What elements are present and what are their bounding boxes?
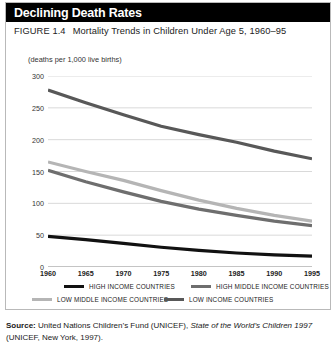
- figure-container: Declining Death Rates FIGURE 1.4Mortalit…: [5, 2, 331, 310]
- page-title: Declining Death Rates: [14, 6, 142, 20]
- y-axis-tick: 150: [32, 167, 44, 176]
- figure-subtitle: Mortality Trends in Children Under Age 5…: [73, 26, 287, 36]
- legend-item: LOW MIDDLE INCOME COUNTRIES: [32, 296, 168, 303]
- x-axis-tick: 1970: [115, 269, 131, 278]
- legend-label: HIGH MIDDLE INCOME COUNTRIES: [216, 283, 329, 290]
- x-axis-tick: 1980: [191, 269, 207, 278]
- chart-series-line: [48, 170, 312, 225]
- x-axis-tick: 1985: [229, 269, 245, 278]
- x-axis-tick: 1990: [266, 269, 282, 278]
- y-axis-tick: 200: [32, 135, 44, 144]
- source-publication-title: State of the World’s Children 1997: [190, 321, 312, 330]
- y-axis-tick: 50: [36, 231, 44, 240]
- y-axis-tick: 0: [40, 263, 44, 272]
- line-chart-svg: [48, 76, 312, 267]
- legend-swatch-icon: [164, 298, 184, 302]
- figure-number: FIGURE 1.4: [14, 26, 66, 36]
- chart-plot-area: [48, 76, 312, 267]
- x-axis-tick: 1965: [78, 269, 94, 278]
- chart-series-line: [48, 162, 312, 221]
- source-label: Source:: [6, 321, 36, 330]
- x-axis-tick: 1960: [40, 269, 56, 278]
- chart-legend: HIGH INCOME COUNTRIESHIGH MIDDLE INCOME …: [6, 282, 332, 308]
- legend-label: LOW INCOME COUNTRIES: [189, 296, 273, 303]
- legend-item: HIGH INCOME COUNTRIES: [64, 283, 175, 290]
- x-axis-tick-labels: 19601965197019751980198519901995: [6, 269, 332, 281]
- legend-swatch-icon: [64, 285, 84, 289]
- figure-caption: FIGURE 1.4Mortality Trends in Children U…: [14, 26, 286, 36]
- legend-label: LOW MIDDLE INCOME COUNTRIES: [57, 296, 168, 303]
- figure-title-bar: Declining Death Rates: [6, 3, 330, 22]
- legend-swatch-icon: [32, 298, 52, 302]
- y-axis-tick: 250: [32, 103, 44, 112]
- source-text-lead: United Nations Children’s Fund (UNICEF),: [36, 321, 191, 330]
- source-note: Source: United Nations Children’s Fund (…: [6, 320, 328, 343]
- x-axis-tick: 1975: [153, 269, 169, 278]
- legend-item: HIGH MIDDLE INCOME COUNTRIES: [191, 283, 329, 290]
- source-text-tail: (UNICEF, New York, 1997).: [6, 333, 103, 342]
- chart-series-line: [48, 236, 312, 256]
- y-axis-tick: 100: [32, 199, 44, 208]
- figure-page: Declining Death Rates FIGURE 1.4Mortalit…: [0, 0, 336, 360]
- legend-swatch-icon: [191, 285, 211, 289]
- y-axis-tick: 300: [32, 72, 44, 81]
- y-axis-tick-labels: 050100150200250300: [6, 3, 48, 303]
- chart-series-line: [48, 90, 312, 159]
- legend-item: LOW INCOME COUNTRIES: [164, 296, 273, 303]
- y-axis-unit-label: (deaths per 1,000 live births): [28, 55, 122, 64]
- legend-label: HIGH INCOME COUNTRIES: [89, 283, 175, 290]
- x-axis-tick: 1995: [304, 269, 320, 278]
